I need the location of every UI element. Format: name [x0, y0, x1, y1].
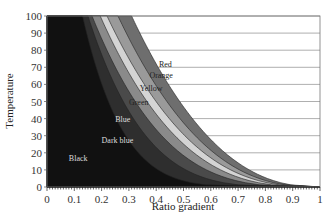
x-tick-label: 0.9 [286, 193, 300, 205]
region-label-red: Red [159, 60, 172, 69]
y-tick-label: 100 [26, 10, 43, 22]
y-tick-label: 20 [31, 147, 43, 159]
contour-chart: BlackDark blueBlueGreenYellowOrangeRed 0… [0, 0, 332, 221]
y-tick-label: 70 [31, 61, 43, 73]
y-tick-label: 40 [31, 113, 43, 125]
y-tick-label: 10 [31, 164, 43, 176]
y-tick-label: 0 [37, 181, 43, 193]
y-tick-label: 80 [31, 44, 43, 56]
x-axis-title: Ratio gradient [152, 200, 215, 212]
y-tick-label: 50 [31, 96, 43, 108]
x-tick-label: 0.8 [259, 193, 273, 205]
x-tick-label: 0.2 [95, 193, 109, 205]
y-axis-ticks: 0102030405060708090100 [26, 10, 48, 193]
region-label-orange: Orange [149, 71, 173, 80]
y-tick-label: 30 [31, 130, 43, 142]
x-tick-label: 1 [317, 193, 323, 205]
y-axis-title: Temperature [3, 73, 15, 129]
y-tick-label: 90 [31, 27, 43, 39]
y-tick-label: 60 [31, 78, 43, 90]
region-label-blue: Blue [115, 115, 131, 124]
x-tick-label: 0.3 [122, 193, 136, 205]
region-label-green: Green [129, 98, 149, 107]
x-tick-label: 0 [44, 193, 50, 205]
region-label-dark-blue: Dark blue [102, 136, 134, 145]
region-label-black: Black [69, 154, 88, 163]
x-tick-label: 0.1 [67, 193, 81, 205]
region-label-yellow: Yellow [140, 84, 163, 93]
x-tick-label: 0.7 [231, 193, 245, 205]
